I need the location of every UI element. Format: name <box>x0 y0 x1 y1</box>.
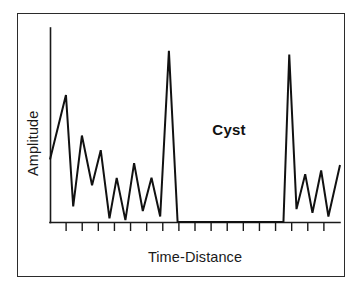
cyst-annotation-label: Cyst <box>212 121 245 138</box>
x-axis-tick-group <box>66 223 324 231</box>
figure-root: Amplitude Time-Distance Cyst <box>0 0 360 292</box>
chart-canvas: Amplitude Time-Distance Cyst <box>0 0 360 292</box>
amplitude-trace <box>50 51 340 222</box>
x-axis-title: Time-Distance <box>148 249 242 265</box>
y-axis-title: Amplitude <box>25 111 41 176</box>
